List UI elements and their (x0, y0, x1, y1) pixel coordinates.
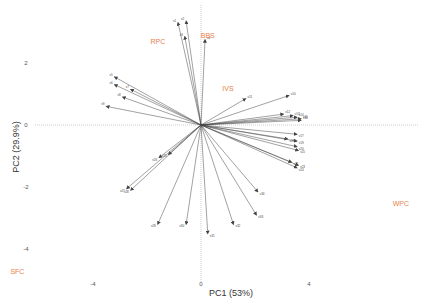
loading-label: v1 (173, 19, 177, 23)
loading-label: v24 (299, 168, 304, 172)
loading-arrow (178, 23, 201, 125)
loading-label: v28 (124, 190, 129, 194)
loading-label: v31 (210, 234, 215, 238)
loading-arrow (186, 125, 201, 224)
loading-arrows (107, 21, 301, 233)
loading-arrow (186, 21, 201, 125)
loading-label: v9 (101, 102, 105, 106)
loading-label: v16 (303, 116, 308, 120)
loading-label: v21 (300, 150, 305, 154)
loading-label: v5 (109, 73, 113, 77)
x-tick-label: -4 (90, 281, 96, 287)
loading-label: v22 (293, 162, 298, 166)
loading-arrow (201, 125, 256, 215)
loading-label: v2 (181, 17, 185, 21)
group-label-sfc: SFC (10, 268, 24, 275)
loading-label: v6 (109, 81, 113, 85)
loading-label: v3 (180, 33, 184, 37)
loading-label: v17 (299, 134, 304, 138)
y-axis-title: PC2 (29.9%) (11, 121, 21, 173)
x-axis-title: PC1 (53%) (209, 288, 253, 298)
loading-arrow (201, 40, 205, 125)
loading-arrow (201, 125, 297, 147)
loading-arrow (185, 37, 201, 125)
loading-arrow (115, 77, 201, 125)
y-tick-label: 0 (24, 122, 28, 128)
x-tick-label: 4 (307, 281, 311, 287)
loading-arrow (158, 125, 201, 224)
loading-label: v32 (235, 224, 240, 228)
loading-label: v7 (126, 85, 130, 89)
loading-arrow (201, 125, 208, 234)
x-axis-ticks: -404 (90, 281, 311, 287)
group-label-rpc: RPC (150, 38, 165, 45)
loading-label: v12 (285, 110, 290, 114)
y-axis-ticks: 20-2-4 (23, 60, 29, 252)
pca-biplot: v1v2v3v4v5v6v7v8v9v10v11v12v13v14v15v16v… (0, 0, 425, 306)
loading-label: v8 (118, 93, 122, 97)
loading-arrow (115, 85, 201, 125)
loading-label: v10 (291, 92, 296, 96)
loading-label: v26 (152, 158, 157, 162)
group-labels: RPCBBSIVSWPCSFC (10, 32, 409, 275)
loading-arrow (107, 106, 202, 125)
loading-arrow (159, 125, 201, 158)
loading-label: v19 (299, 141, 304, 145)
loading-arrow (201, 125, 298, 165)
loading-arrow (201, 125, 258, 192)
loading-arrow (123, 97, 201, 125)
zero-lines (35, 5, 418, 283)
loading-label: v11 (248, 95, 253, 99)
group-label-bbs: BBS (201, 32, 215, 39)
loading-label: v34 (260, 192, 265, 196)
y-tick-label: -4 (23, 246, 29, 252)
group-label-ivs: IVS (222, 85, 234, 92)
loading-label: v25 (162, 154, 167, 158)
loading-label: v30 (179, 224, 184, 228)
loading-label: v29 (151, 224, 156, 228)
x-tick-label: 0 (199, 281, 203, 287)
y-tick-label: -2 (23, 184, 29, 190)
loading-label: v18 (289, 139, 294, 143)
loading-arrow (131, 89, 201, 125)
loading-arrow (201, 125, 233, 224)
y-tick-label: 2 (24, 60, 28, 66)
loading-label: v33 (258, 215, 263, 219)
group-label-wpc: WPC (393, 200, 409, 207)
